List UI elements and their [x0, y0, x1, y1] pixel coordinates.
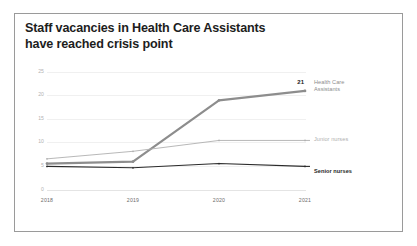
- chart-figure: Staff vacancies in Health Care Assistant…: [0, 0, 417, 246]
- series-line-1: [47, 140, 305, 158]
- series-1-point-0: [46, 158, 48, 160]
- series-line-2: [47, 164, 305, 168]
- legend-senior-nurses: Senior nurses: [314, 168, 352, 175]
- series-1-point-1: [132, 150, 134, 152]
- data-label-hca-2021: 21: [284, 79, 304, 85]
- series-0-point-1: [132, 160, 135, 163]
- series-2-point-1: [132, 167, 134, 169]
- legend-junior-nurses: Junior nurses: [314, 136, 348, 143]
- series-0-point-3: [304, 90, 307, 93]
- legend-hca-line-2: Assistants: [314, 86, 340, 92]
- series-line-0: [47, 91, 305, 164]
- series-0-point-0: [46, 162, 49, 165]
- legend-hca-line-1: Health Care: [314, 79, 344, 85]
- series-1-point-2: [218, 140, 220, 142]
- series-2-point-0: [46, 166, 48, 168]
- legend-health-care-assistants: Health Care Assistants: [314, 79, 344, 93]
- series-2-point-2: [218, 163, 220, 165]
- series-lines: [0, 0, 417, 246]
- plot-area: 25 20 15 10 5 0 2018 2019 2020 2021 21 H…: [0, 0, 417, 246]
- series-0-point-2: [218, 99, 221, 102]
